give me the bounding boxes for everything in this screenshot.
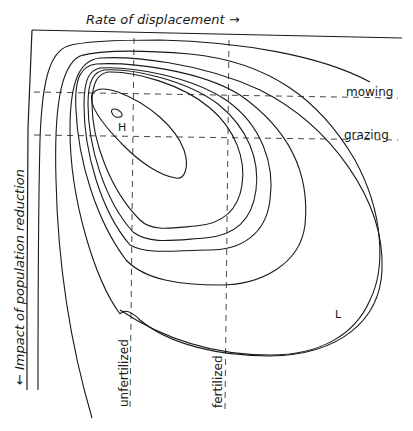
contour-5 bbox=[84, 68, 271, 251]
fertilized-label: fertilized bbox=[211, 355, 225, 408]
contour-4 bbox=[76, 64, 306, 285]
y-axis-line bbox=[27, 30, 32, 390]
unfertilized-label: unfertilized bbox=[117, 339, 131, 407]
low-label-l: L bbox=[335, 308, 342, 321]
peak-label-h: H bbox=[118, 121, 126, 134]
contour-1 bbox=[38, 40, 370, 390]
x-axis-line bbox=[32, 30, 402, 38]
contour-7 bbox=[92, 72, 243, 228]
mowing-label: mowing bbox=[346, 85, 393, 99]
peak-contour bbox=[111, 109, 122, 117]
contour-diagram: Rate of displacement → ← Impact of popul… bbox=[0, 0, 413, 431]
grazing-label: grazing bbox=[344, 128, 389, 142]
x-axis-label: Rate of displacement → bbox=[86, 12, 240, 27]
contour-8 bbox=[91, 89, 186, 178]
contour-6 bbox=[88, 70, 257, 241]
y-axis-label: ← Impact of population reduction bbox=[12, 169, 27, 385]
